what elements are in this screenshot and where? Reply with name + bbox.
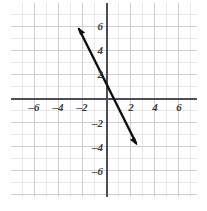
y-tick-label: –2 bbox=[91, 117, 104, 129]
x-tick-label: 2 bbox=[127, 101, 134, 113]
graph-canvas: –6 –4 –2 2 4 6 6 4 2 –2 –4 –6 bbox=[0, 0, 207, 211]
y-tick-label: 6 bbox=[98, 20, 104, 32]
coordinate-plane-figure: –6 –4 –2 2 4 6 6 4 2 –2 –4 –6 bbox=[0, 0, 207, 211]
y-tick-label: –6 bbox=[91, 165, 104, 177]
x-tick-label: –4 bbox=[52, 101, 65, 113]
y-tick-label: 4 bbox=[97, 44, 104, 56]
y-tick-label: 2 bbox=[97, 68, 104, 80]
y-tick-label: –4 bbox=[91, 141, 104, 153]
x-tick-label: –6 bbox=[28, 101, 41, 113]
x-tick-label: 4 bbox=[151, 101, 158, 113]
x-tick-label: 6 bbox=[176, 101, 182, 113]
x-tick-label: –2 bbox=[76, 101, 89, 113]
